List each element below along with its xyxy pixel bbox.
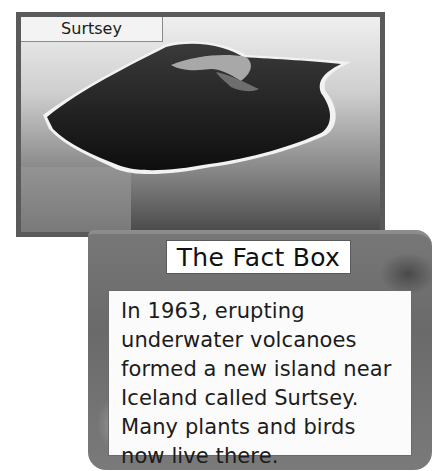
fact-box: The Fact Box In 1963, erupting underwate…	[88, 230, 432, 470]
fact-box-title: The Fact Box	[166, 240, 351, 274]
photo-frame: Surtsey	[16, 12, 385, 237]
photo-caption-label: Surtsey	[21, 17, 163, 42]
island-photo	[21, 17, 380, 232]
fact-text-panel: In 1963, erupting underwater volcanoes f…	[108, 290, 412, 456]
fact-text: In 1963, erupting underwater volcanoes f…	[121, 297, 403, 471]
